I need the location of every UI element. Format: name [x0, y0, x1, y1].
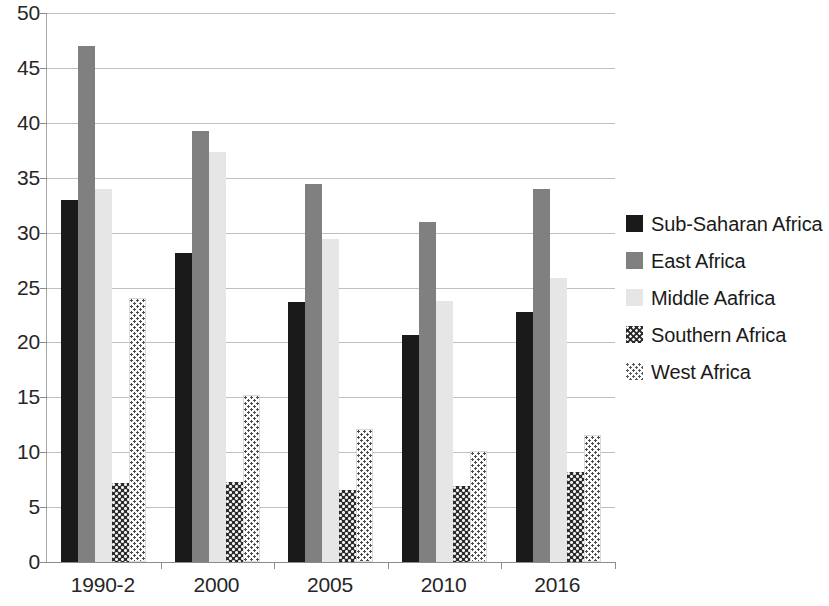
- legend-item[interactable]: West Africa: [626, 353, 829, 390]
- bar[interactable]: [175, 253, 192, 562]
- bar[interactable]: [61, 200, 78, 562]
- y-tick-mark: [40, 507, 47, 508]
- plot-area: [46, 13, 615, 562]
- x-tick-label: 2005: [273, 572, 387, 598]
- bar[interactable]: [322, 239, 339, 562]
- bar[interactable]: [516, 312, 533, 562]
- legend-item[interactable]: Southern Africa: [626, 316, 829, 353]
- bar[interactable]: [112, 483, 129, 562]
- y-tick-label: 20: [0, 331, 40, 352]
- legend-label: Sub-Saharan Africa: [651, 213, 823, 235]
- bar[interactable]: [402, 335, 419, 562]
- legend-label: Southern Africa: [651, 324, 786, 346]
- bar[interactable]: [192, 131, 209, 563]
- bar-group: [501, 13, 615, 562]
- bar-group: [47, 13, 161, 562]
- y-tick-label: 0: [0, 551, 40, 572]
- legend-swatch-icon: [626, 326, 643, 343]
- y-tick-label: 5: [0, 496, 40, 517]
- y-tick-mark: [40, 13, 47, 14]
- bar[interactable]: [356, 429, 373, 562]
- bar[interactable]: [288, 302, 305, 562]
- bar[interactable]: [129, 298, 146, 562]
- y-tick-mark: [40, 342, 47, 343]
- x-tick-mark: [501, 562, 502, 569]
- legend-item[interactable]: Middle Aafrica: [626, 279, 829, 316]
- x-tick-label: 1990-2: [46, 572, 160, 598]
- legend-item[interactable]: Sub-Saharan Africa: [626, 205, 829, 242]
- y-tick-label: 40: [0, 112, 40, 133]
- legend-swatch-icon: [626, 363, 643, 380]
- bar[interactable]: [436, 301, 453, 562]
- x-tick-mark: [274, 562, 275, 569]
- bar[interactable]: [533, 189, 550, 562]
- bar[interactable]: [95, 189, 112, 562]
- bar-group: [388, 13, 502, 562]
- bar[interactable]: [305, 184, 322, 562]
- x-tick-label: 2010: [387, 572, 501, 598]
- y-tick-label: 45: [0, 57, 40, 78]
- bar[interactable]: [78, 46, 95, 562]
- bar-group: [161, 13, 275, 562]
- legend-label: West Africa: [651, 361, 751, 383]
- chart-legend: Sub-Saharan AfricaEast AfricaMiddle Aafr…: [626, 205, 829, 390]
- y-tick-mark: [40, 452, 47, 453]
- x-tick-mark: [388, 562, 389, 569]
- y-tick-label: 15: [0, 386, 40, 407]
- bar[interactable]: [550, 278, 567, 562]
- y-tick-mark: [40, 562, 47, 563]
- bar[interactable]: [470, 451, 487, 562]
- y-tick-mark: [40, 68, 47, 69]
- y-tick-mark: [40, 123, 47, 124]
- x-tick-label: 2016: [500, 572, 614, 598]
- y-tick-mark: [40, 288, 47, 289]
- legend-label: Middle Aafrica: [651, 287, 775, 309]
- y-tick-mark: [40, 178, 47, 179]
- y-tick-label: 50: [0, 2, 40, 23]
- bar[interactable]: [567, 472, 584, 562]
- bar[interactable]: [584, 435, 601, 562]
- y-tick-mark: [40, 397, 47, 398]
- bar[interactable]: [226, 482, 243, 562]
- x-tick-mark: [161, 562, 162, 569]
- bar-chart: 05101520253035404550 1990-22000200520102…: [0, 0, 829, 606]
- legend-swatch-icon: [626, 215, 643, 232]
- y-tick-label: 30: [0, 222, 40, 243]
- legend-swatch-icon: [626, 289, 643, 306]
- bar[interactable]: [453, 486, 470, 562]
- bar[interactable]: [243, 395, 260, 562]
- bar[interactable]: [209, 152, 226, 562]
- bar[interactable]: [419, 222, 436, 562]
- y-tick-mark: [40, 233, 47, 234]
- y-axis: 05101520253035404550: [0, 0, 40, 606]
- y-tick-label: 25: [0, 277, 40, 298]
- plot-wrapper: 05101520253035404550 1990-22000200520102…: [0, 0, 620, 606]
- x-tick-mark: [615, 562, 616, 569]
- gridline: [47, 562, 615, 563]
- legend-swatch-icon: [626, 252, 643, 269]
- legend-item[interactable]: East Africa: [626, 242, 829, 279]
- legend-label: East Africa: [651, 250, 746, 272]
- bar-group: [274, 13, 388, 562]
- bar[interactable]: [339, 490, 356, 562]
- x-tick-label: 2000: [160, 572, 274, 598]
- y-tick-label: 35: [0, 167, 40, 188]
- x-axis: 1990-22000200520102016: [46, 572, 614, 606]
- y-tick-label: 10: [0, 441, 40, 462]
